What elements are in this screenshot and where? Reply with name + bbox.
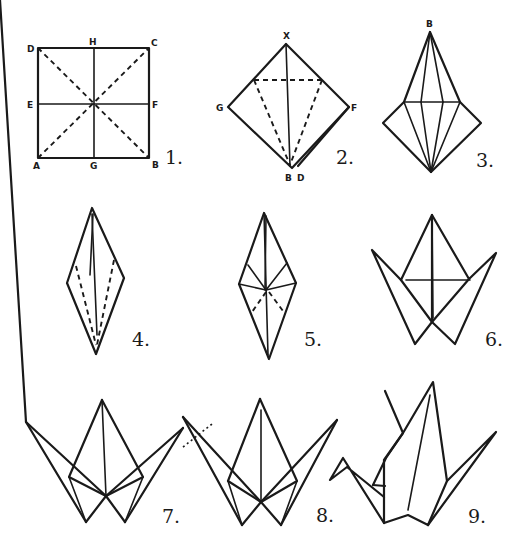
step-number: 1. [165, 146, 183, 168]
label-b: B [152, 160, 159, 170]
label-g: G [216, 103, 223, 113]
step-3-figure: B 3. [383, 19, 494, 172]
step-4-figure: 4. [67, 208, 150, 354]
step-number: 9. [468, 505, 486, 527]
step-number: 8. [316, 504, 334, 526]
step-5-figure: 5. [239, 213, 322, 359]
label-f: F [152, 100, 158, 110]
label-g: G [90, 161, 97, 171]
step-1-figure: D H C E F A G B 1. [27, 37, 183, 171]
step-2-figure: X G F B D 2. [216, 31, 357, 183]
label-x: X [283, 31, 290, 41]
label-b: B [426, 19, 433, 29]
step-9-figure: 9. [330, 382, 496, 527]
step-6-figure: 6. [372, 215, 503, 350]
label-d: D [27, 44, 34, 54]
step-8-figure: 8. [183, 399, 337, 526]
step-number: 3. [476, 149, 494, 171]
label-b: B [285, 173, 292, 183]
label-c: C [151, 38, 158, 48]
origami-diagram: D H C E F A G B 1. X G F B D 2. B 3. [0, 0, 527, 547]
step-number: 2. [336, 146, 354, 168]
label-h: H [89, 37, 97, 47]
step-number: 7. [162, 505, 180, 527]
step-number: 5. [304, 328, 322, 350]
label-f: F [351, 103, 357, 113]
label-d: D [297, 173, 304, 183]
label-e: E [27, 100, 33, 110]
label-a: A [33, 161, 40, 171]
step-7-figure: 7. [0, 0, 183, 527]
step-number: 4. [132, 328, 150, 350]
step-number: 6. [485, 328, 503, 350]
